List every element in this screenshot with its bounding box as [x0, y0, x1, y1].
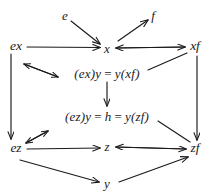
lower-equation-lhs: (ez)y: [65, 109, 91, 124]
upper-equation-lhs: (ex)y: [74, 66, 101, 81]
node-e: e: [62, 9, 68, 22]
node-zf: zf: [190, 141, 199, 155]
node-f: f: [151, 9, 155, 22]
upper-equation-operator-1: =: [101, 66, 115, 81]
edge-yxf-to-xf: [148, 53, 187, 70]
commutative-diagram: e f ex x xf ez z zf y (ex)y=y(xf) (ez)y=…: [0, 0, 211, 196]
diagram-edges-layer: [0, 0, 211, 196]
edge-yzf-to-zf: [158, 121, 190, 142]
edge-upper-eq-ex: [24, 64, 58, 77]
edge-ez-to-z: [27, 148, 100, 149]
lower-equation-rhs: y(zf): [125, 109, 149, 124]
upper-equation: (ex)y=y(xf): [74, 67, 139, 80]
node-xf: xf: [190, 39, 200, 53]
edge-xf-to-x: [116, 47, 185, 48]
upper-equation-rhs: y(xf): [115, 66, 140, 81]
edge-lower-eq-ez: [26, 131, 48, 143]
node-z: z: [104, 140, 109, 153]
node-y: y: [104, 177, 110, 190]
lower-equation-operator-1: =: [91, 109, 105, 124]
edge-zf-to-z: [116, 147, 186, 149]
lower-equation-operator-2: =: [111, 109, 125, 124]
node-ez: ez: [10, 141, 21, 155]
lower-equation: (ez)y=h=y(zf): [65, 110, 149, 123]
edge-y-to-zf: [119, 157, 188, 182]
edge-ex-to-x: [27, 47, 100, 48]
node-x: x: [104, 42, 110, 55]
edge-e-to-x: [71, 21, 100, 44]
edge-x-to-f: [118, 20, 148, 41]
edge-ez-to-y: [20, 160, 99, 182]
node-ex: ex: [10, 39, 22, 53]
lower-equation-mid: h: [105, 109, 112, 124]
